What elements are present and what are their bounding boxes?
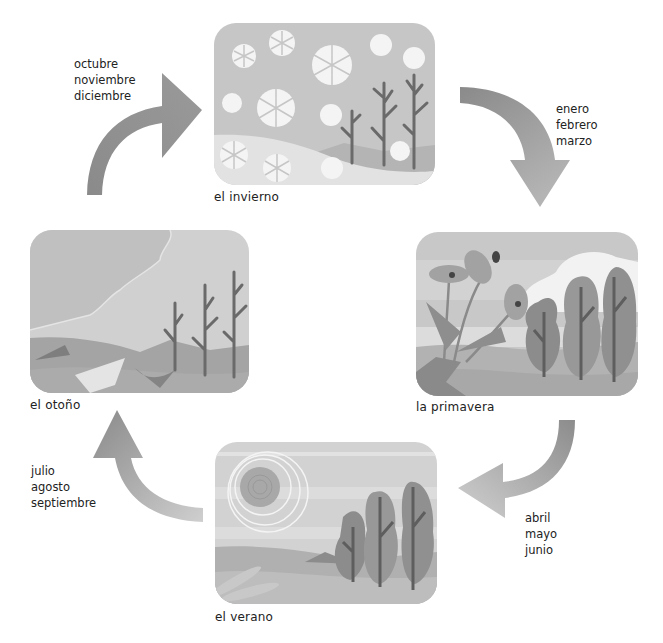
summer-label: el verano (215, 610, 273, 624)
bee-icon (492, 251, 500, 263)
months-apr-jun: abril mayo junio (525, 510, 557, 558)
winter-illustration (214, 23, 435, 185)
winter-label: el invierno (214, 190, 279, 204)
arrow-summer-to-autumn (85, 410, 205, 525)
spring-label: la primavera (416, 400, 495, 414)
months-jul-sep: julio agosto septiembre (31, 463, 96, 511)
months-oct-dec: octubre noviembre diciembre (74, 56, 135, 104)
arrow-spring-to-summer (455, 420, 575, 520)
summer-scene (215, 442, 437, 604)
autumn-illustration (30, 230, 249, 393)
autumn-scene (30, 230, 249, 393)
summer-illustration (215, 442, 437, 604)
sun-icon (240, 467, 280, 507)
autumn-label: el otoño (30, 398, 80, 412)
winter-scene (214, 23, 435, 185)
spring-illustration (416, 232, 638, 396)
months-jan-mar: enero febrero marzo (556, 101, 598, 149)
spring-scene (416, 232, 638, 396)
